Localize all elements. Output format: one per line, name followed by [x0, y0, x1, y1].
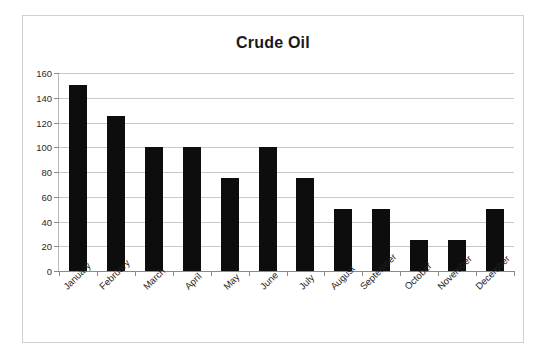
x-axis-tick-mark: [476, 271, 477, 276]
bars-layer: [59, 73, 514, 271]
y-axis-tick-label: 20: [41, 241, 52, 252]
x-axis-tick-label: April: [182, 271, 203, 292]
x-axis-label-slot: June: [249, 278, 287, 338]
x-axis-label-slot: August: [324, 278, 362, 338]
x-axis-tick-label: June: [257, 269, 279, 291]
bar[interactable]: [145, 147, 163, 271]
y-axis-tick-label: 100: [36, 142, 52, 153]
x-axis-label-slot: May: [211, 278, 249, 338]
x-axis-tick-mark: [173, 271, 174, 276]
bar-band: [438, 73, 476, 271]
bar-band: [135, 73, 173, 271]
x-axis-label-slot: December: [476, 278, 514, 338]
chart-frame: Crude Oil 020406080100120140160 JanuaryF…: [22, 15, 524, 343]
x-axis-tick-mark: [211, 271, 212, 276]
x-axis-label-slot: April: [173, 278, 211, 338]
x-axis-labels: JanuaryFebruaryMarchAprilMayJuneJulyAugu…: [59, 278, 514, 338]
bar-band: [287, 73, 325, 271]
x-axis-label-slot: July: [287, 278, 325, 338]
x-axis-label-slot: November: [438, 278, 476, 338]
bar-band: [211, 73, 249, 271]
bar[interactable]: [296, 178, 314, 271]
bar-band: [362, 73, 400, 271]
x-axis-tick-mark: [438, 271, 439, 276]
x-axis-tick-mark: [362, 271, 363, 276]
bar[interactable]: [221, 178, 239, 271]
bar[interactable]: [334, 209, 352, 271]
bar[interactable]: [183, 147, 201, 271]
bar-band: [249, 73, 287, 271]
y-axis-tick-label: 80: [41, 167, 52, 178]
x-axis-tick-mark: [135, 271, 136, 276]
bar[interactable]: [69, 85, 87, 271]
bar-band: [476, 73, 514, 271]
x-axis-tick-mark: [400, 271, 401, 276]
x-axis-tick-label: July: [297, 272, 317, 292]
plot-area: 020406080100120140160: [59, 73, 514, 271]
bar-band: [97, 73, 135, 271]
bar-band: [173, 73, 211, 271]
bar[interactable]: [107, 116, 125, 271]
y-axis-tick-label: 60: [41, 191, 52, 202]
y-axis-tick-label: 40: [41, 216, 52, 227]
x-axis-label-slot: February: [97, 278, 135, 338]
x-axis-tick-mark: [97, 271, 98, 276]
x-axis-tick-mark: [287, 271, 288, 276]
x-axis-label-slot: October: [400, 278, 438, 338]
y-axis-tick-label: 120: [36, 117, 52, 128]
x-axis-tick-mark: [59, 271, 60, 276]
x-axis-label-slot: September: [362, 278, 400, 338]
x-axis-label-slot: January: [59, 278, 97, 338]
x-axis-label-slot: March: [135, 278, 173, 338]
bar[interactable]: [259, 147, 277, 271]
x-axis-tick-mark: [249, 271, 250, 276]
bar-band: [400, 73, 438, 271]
x-axis-tick-mark: [514, 271, 515, 276]
x-axis-tick-label: May: [221, 271, 241, 291]
x-axis-tick-mark: [324, 271, 325, 276]
bar-band: [59, 73, 97, 271]
bar-band: [324, 73, 362, 271]
y-axis-tick-label: 140: [36, 92, 52, 103]
y-axis-tick-label: 0: [47, 266, 52, 277]
y-axis-tick-label: 160: [36, 68, 52, 79]
chart-title: Crude Oil: [23, 34, 523, 52]
